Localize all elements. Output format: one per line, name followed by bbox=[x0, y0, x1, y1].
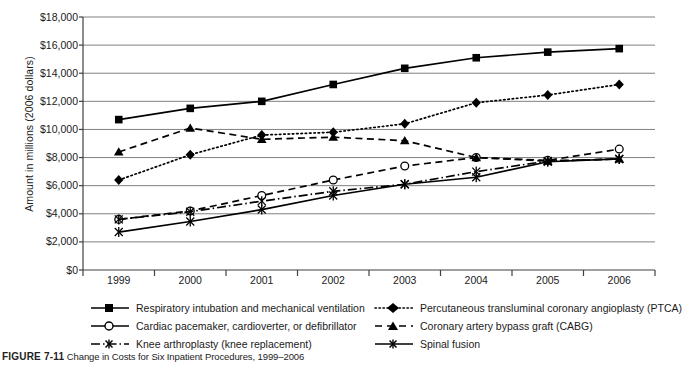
legend-label: Coronary artery bypass graft (CABG) bbox=[420, 320, 593, 332]
x-tick-2002: 2002 bbox=[298, 274, 368, 286]
x-tick-2003: 2003 bbox=[370, 274, 440, 286]
legend-key-dotted-diamond-icon bbox=[374, 302, 414, 314]
chart-plot-area: Amount in millions (2006 dollars) $18,00… bbox=[0, 0, 669, 292]
legend-item-spinal-fusion[interactable]: Spinal fusion bbox=[374, 338, 480, 350]
legend-key-dashed-triangle-icon bbox=[374, 320, 414, 332]
chart-canvas bbox=[0, 0, 669, 292]
x-tick-2000: 2000 bbox=[155, 274, 225, 286]
legend-item-cabg[interactable]: Coronary artery bypass graft (CABG) bbox=[374, 320, 593, 332]
legend-key-open-circle-icon bbox=[90, 320, 130, 332]
legend-label: Percutaneous transluminal coronary angio… bbox=[420, 302, 682, 314]
figure-caption-number: FIGURE 7-11 bbox=[2, 351, 64, 362]
legend-label: Knee arthroplasty (knee replacement) bbox=[136, 338, 312, 350]
legend-item-knee-arthroplasty[interactable]: Knee arthroplasty (knee replacement) bbox=[90, 338, 312, 350]
legend-item-ptca[interactable]: Percutaneous transluminal coronary angio… bbox=[374, 302, 682, 314]
chart-legend: Respiratory intubation and mechanical ve… bbox=[34, 298, 664, 348]
legend-key-dashdot-asterisk-icon bbox=[90, 338, 130, 350]
legend-label: Spinal fusion bbox=[420, 338, 480, 350]
figure-caption-text: Change in Costs for Six Inpatient Proced… bbox=[67, 351, 304, 362]
legend-label: Respiratory intubation and mechanical ve… bbox=[136, 302, 365, 314]
legend-key-solid-asterisk-icon bbox=[374, 338, 414, 350]
legend-key-solid-square-icon bbox=[90, 302, 130, 314]
series-1 bbox=[114, 79, 624, 185]
chart-axes bbox=[79, 17, 655, 270]
x-tick-2004: 2004 bbox=[441, 274, 511, 286]
x-tick-2006: 2006 bbox=[584, 274, 654, 286]
legend-label: Cardiac pacemaker, cardioverter, or defi… bbox=[136, 320, 357, 332]
legend-item-cardiac-pacemaker[interactable]: Cardiac pacemaker, cardioverter, or defi… bbox=[90, 320, 357, 332]
x-tick-1999: 1999 bbox=[84, 274, 154, 286]
legend-item-respiratory-intubation[interactable]: Respiratory intubation and mechanical ve… bbox=[90, 302, 365, 314]
series-0 bbox=[115, 45, 623, 124]
figure-caption: FIGURE 7-11 Change in Costs for Six Inpa… bbox=[2, 351, 304, 362]
x-tick-2001: 2001 bbox=[227, 274, 297, 286]
series-5 bbox=[115, 154, 624, 237]
x-tick-2005: 2005 bbox=[513, 274, 583, 286]
